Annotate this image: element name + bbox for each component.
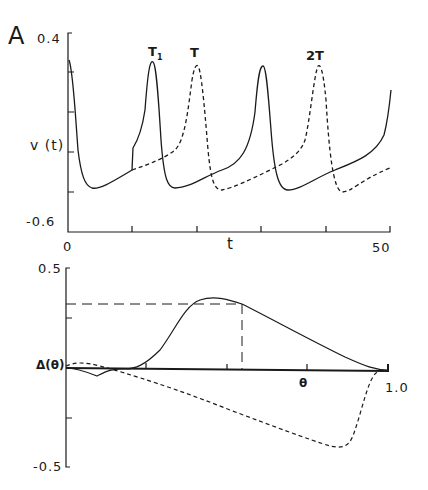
top-dashed-series — [132, 66, 390, 192]
annotation-t1: T1 — [148, 44, 162, 62]
top-axes — [68, 33, 390, 232]
top-x-axis-title: t — [227, 235, 233, 253]
top-y-axis-title: v (t) — [30, 137, 64, 153]
top-y-max-label: 0.4 — [37, 31, 61, 46]
bottom-y-max-label: 0.5 — [38, 261, 62, 276]
bottom-y-axis-title: Δ(θ) — [36, 358, 65, 372]
panel-label: A — [8, 22, 24, 50]
bottom-axes — [66, 268, 388, 467]
bottom-x-axis-title: θ — [299, 376, 307, 390]
bottom-y-min-label: -0.5 — [33, 459, 62, 474]
annotation-t: T — [190, 45, 199, 60]
top-x-min-label: 0 — [63, 239, 72, 254]
bottom-x-max-label: 1.0 — [385, 380, 409, 395]
annotation-2t: 2T — [306, 48, 324, 63]
bottom-dashed-series — [66, 363, 388, 447]
top-solid-series — [69, 60, 391, 190]
top-y-min-label: -0.6 — [26, 214, 55, 229]
top-x-max-label: 50 — [372, 240, 391, 255]
